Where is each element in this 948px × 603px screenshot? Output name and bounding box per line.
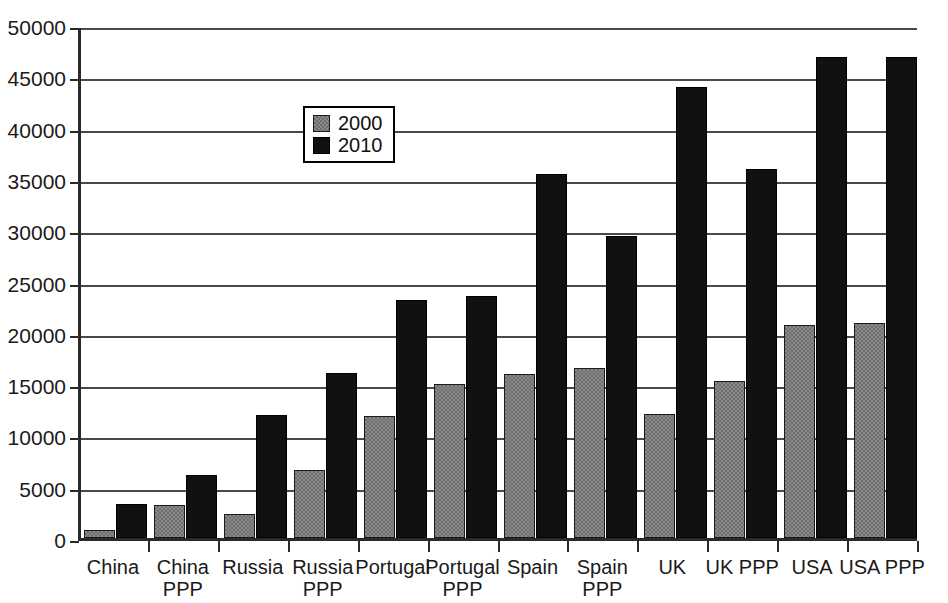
y-axis-tick-label: 40000 bbox=[0, 120, 66, 141]
bar-2000-uk bbox=[644, 414, 675, 538]
bar-2010-russia-ppp bbox=[326, 373, 357, 538]
x-axis-tick-mark bbox=[428, 541, 430, 552]
legend-swatch-2010-icon bbox=[313, 137, 330, 154]
legend-label-2000: 2000 bbox=[338, 113, 383, 133]
bar-2000-spain-ppp bbox=[574, 368, 605, 538]
x-axis-label-line: PPP bbox=[554, 578, 650, 600]
y-axis-tick-label: 50000 bbox=[0, 17, 66, 38]
x-axis-tick-mark bbox=[218, 541, 220, 552]
bar-2010-russia bbox=[256, 415, 287, 538]
bar-group bbox=[81, 28, 151, 538]
bar-2010-china bbox=[116, 504, 147, 538]
y-axis-tick-label: 25000 bbox=[0, 274, 66, 295]
y-axis-tick-label: 15000 bbox=[0, 376, 66, 397]
bar-2000-china bbox=[84, 530, 115, 538]
bar-2000-china-ppp bbox=[154, 505, 185, 538]
bar-2000-portugal-ppp bbox=[434, 384, 465, 538]
bar-chart: 0500010000150002000025000300003500040000… bbox=[0, 0, 948, 603]
bar-2010-china-ppp bbox=[186, 475, 217, 538]
y-axis-tick-label: 45000 bbox=[0, 68, 66, 89]
x-axis-label-line: PPP bbox=[135, 578, 231, 600]
bar-2000-spain bbox=[504, 374, 535, 538]
x-axis-tick-mark bbox=[847, 541, 849, 552]
x-axis-tick-mark bbox=[917, 541, 919, 552]
bar-2010-portugal bbox=[396, 300, 427, 538]
bar-2010-uk bbox=[676, 87, 707, 538]
x-axis-tick-mark bbox=[777, 541, 779, 552]
x-axis-label-line: PPP bbox=[275, 578, 371, 600]
y-axis-tick-label: 10000 bbox=[0, 427, 66, 448]
plot-area: 2000 2010 bbox=[78, 28, 917, 541]
x-axis-tick-mark bbox=[288, 541, 290, 552]
x-axis-tick-mark bbox=[498, 541, 500, 552]
bar-2000-usa-ppp bbox=[854, 323, 885, 538]
bar-group bbox=[640, 28, 710, 538]
y-axis-tick-label: 20000 bbox=[0, 325, 66, 346]
bar-2000-uk-ppp bbox=[714, 381, 745, 538]
x-axis-tick-mark bbox=[707, 541, 709, 552]
bar-group bbox=[431, 28, 501, 538]
bar-group bbox=[570, 28, 640, 538]
bar-group bbox=[291, 28, 361, 538]
bar-2000-usa bbox=[784, 325, 815, 538]
bar-group bbox=[501, 28, 571, 538]
y-axis-tick-label: 30000 bbox=[0, 222, 66, 243]
bar-2010-uk-ppp bbox=[746, 169, 777, 538]
bar-2010-portugal-ppp bbox=[466, 296, 497, 538]
legend-swatch-2000-icon bbox=[313, 115, 330, 132]
x-axis-tick-mark bbox=[637, 541, 639, 552]
x-axis-tick-mark bbox=[148, 541, 150, 552]
x-axis-label: USA PPP bbox=[834, 556, 930, 578]
legend-item-2010: 2010 bbox=[313, 134, 383, 156]
y-axis-tick-label: 5000 bbox=[0, 479, 66, 500]
legend-item-2000: 2000 bbox=[313, 112, 383, 134]
x-axis-tick-mark bbox=[358, 541, 360, 552]
legend-label-2010: 2010 bbox=[338, 135, 383, 155]
bar-2010-usa-ppp bbox=[886, 57, 917, 538]
bar-2000-russia bbox=[224, 514, 255, 538]
legend: 2000 2010 bbox=[303, 106, 395, 163]
bar-2010-usa bbox=[816, 57, 847, 538]
bar-2000-russia-ppp bbox=[294, 470, 325, 538]
bar-2000-portugal bbox=[364, 416, 395, 538]
x-axis-tick-mark bbox=[567, 541, 569, 552]
y-axis-tick-mark bbox=[70, 541, 79, 543]
y-axis-tick-label: 0 bbox=[0, 530, 66, 551]
bar-group bbox=[850, 28, 920, 538]
bar-group bbox=[780, 28, 850, 538]
bar-2010-spain bbox=[536, 174, 567, 538]
bar-group bbox=[151, 28, 221, 538]
y-axis-tick-label: 35000 bbox=[0, 171, 66, 192]
x-axis-label-line: USA PPP bbox=[834, 556, 930, 578]
bar-group bbox=[710, 28, 780, 538]
bar-group bbox=[361, 28, 431, 538]
x-axis-label-line: PPP bbox=[415, 578, 511, 600]
bar-2010-spain-ppp bbox=[606, 236, 637, 538]
bar-group bbox=[221, 28, 291, 538]
